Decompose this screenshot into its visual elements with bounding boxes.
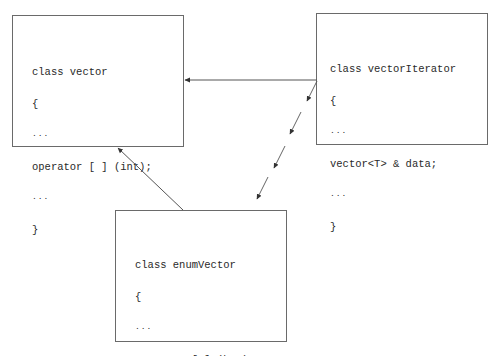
- ellipsis: ...: [135, 324, 255, 333]
- ellipsis: ...: [32, 131, 152, 140]
- class-code-vectorIterator: class vectorIterator { ... vector<T> & d…: [330, 42, 456, 254]
- class-declaration: class enumVector: [135, 260, 255, 271]
- ellipsis: ...: [330, 128, 456, 137]
- member-data: vector<T> & data;: [330, 159, 456, 170]
- class-declaration: class vector: [32, 67, 152, 78]
- dashed-arrow-vectorIterator-to-enumVector: [257, 81, 317, 199]
- member-operator: operator [ ] (int);: [32, 162, 152, 173]
- open-brace: {: [135, 292, 255, 303]
- ellipsis: ...: [330, 191, 456, 200]
- open-brace: {: [32, 99, 152, 110]
- class-declaration: class vectorIterator: [330, 64, 456, 75]
- close-brace: }: [330, 222, 456, 233]
- open-brace: {: [330, 96, 456, 107]
- ellipsis: ...: [32, 194, 152, 203]
- class-code-enumVector: class enumVector { ... operator [ ] (hue…: [135, 238, 255, 356]
- diagram-canvas: class vector { ... operator [ ] (int); .…: [0, 0, 499, 356]
